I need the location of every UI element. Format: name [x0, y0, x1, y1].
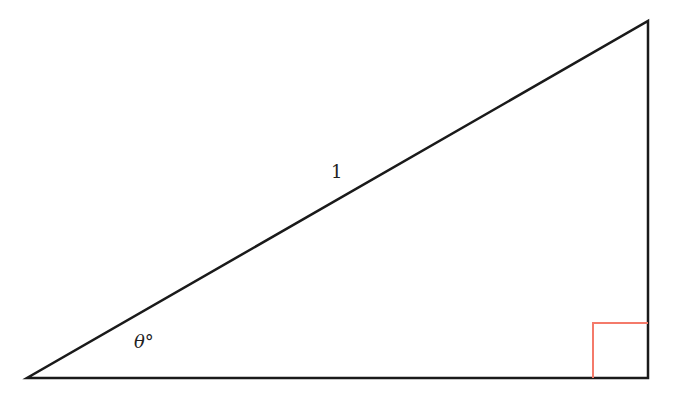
right-angle-marker — [593, 323, 648, 378]
angle-theta-label: θ° — [134, 333, 154, 351]
triangle-diagram — [0, 0, 685, 399]
hypotenuse-label: 1 — [331, 163, 342, 181]
right-triangle — [27, 21, 648, 378]
